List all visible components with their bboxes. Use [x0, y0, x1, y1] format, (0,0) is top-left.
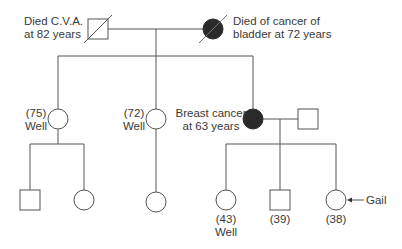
status-label: Well	[24, 120, 48, 133]
label-line: bladder at 72 years	[233, 28, 331, 41]
label-line: Died of cancer of	[233, 15, 331, 28]
male-symbol	[298, 109, 318, 129]
male-symbol	[270, 190, 290, 210]
proband-female-symbol	[326, 190, 346, 210]
age-label: (39)	[266, 213, 294, 226]
label-line: at 82 years	[24, 28, 83, 41]
age-label: (38)	[322, 213, 350, 226]
age-label: (43)	[212, 213, 240, 226]
grandmother-label: Died of cancer of bladder at 72 years	[233, 15, 331, 41]
grandfather-label: Died C.V.A. at 82 years	[24, 15, 83, 41]
female-symbol	[216, 190, 236, 210]
gail-age-label: (38)	[322, 213, 350, 226]
age-label: (75)	[24, 107, 48, 120]
sister-label: (43) Well	[212, 213, 240, 239]
female-symbol	[146, 192, 166, 212]
aunt72-label: (72) Well	[121, 107, 147, 133]
status-label: Well	[121, 120, 147, 133]
female-symbol	[146, 109, 166, 129]
female-symbol	[74, 190, 94, 210]
male-symbol	[20, 190, 40, 210]
mother-label: Breast cancer at 63 years	[175, 107, 247, 133]
age-label: (72)	[121, 107, 147, 120]
female-symbol	[48, 109, 68, 129]
brother-label: (39)	[266, 213, 294, 226]
label-line: Died C.V.A.	[24, 15, 83, 28]
label-line: at 63 years	[175, 120, 247, 133]
label-line: Breast cancer	[175, 107, 247, 120]
aunt75-label: (75) Well	[24, 107, 48, 133]
proband-name-label: Gail	[366, 194, 386, 207]
status-label: Well	[212, 226, 240, 239]
proband-arrow-icon	[347, 198, 352, 203]
